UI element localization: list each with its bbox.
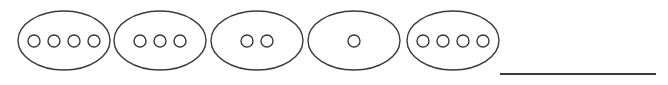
group-1-dot-3[interactable] (68, 35, 80, 47)
group-2-oval[interactable] (114, 11, 206, 70)
group-5-oval[interactable] (407, 11, 499, 70)
group-2-dot-2[interactable] (154, 35, 166, 47)
group-5-dot-2[interactable] (437, 35, 449, 47)
group-1-dot-2[interactable] (48, 35, 60, 47)
diagram-surface (0, 0, 668, 85)
group-3-oval[interactable] (211, 11, 303, 70)
group-3-dot-1[interactable] (241, 35, 253, 47)
group-4-dot-1[interactable] (348, 35, 360, 47)
group-5-dot-1[interactable] (417, 35, 429, 47)
group-4[interactable] (308, 11, 400, 70)
group-1-dot-4[interactable] (88, 35, 100, 47)
worksheet-canvas (0, 0, 668, 85)
group-3[interactable] (211, 11, 303, 70)
group-1-dot-1[interactable] (28, 35, 40, 47)
groups-layer (18, 11, 499, 70)
group-5[interactable] (407, 11, 499, 70)
group-5-dot-4[interactable] (477, 35, 489, 47)
group-4-oval[interactable] (308, 11, 400, 70)
group-2[interactable] (114, 11, 206, 70)
group-2-dot-3[interactable] (174, 35, 186, 47)
group-3-dot-2[interactable] (261, 35, 273, 47)
group-1-oval[interactable] (18, 11, 110, 70)
group-5-dot-3[interactable] (457, 35, 469, 47)
group-1[interactable] (18, 11, 110, 70)
group-2-dot-1[interactable] (134, 35, 146, 47)
